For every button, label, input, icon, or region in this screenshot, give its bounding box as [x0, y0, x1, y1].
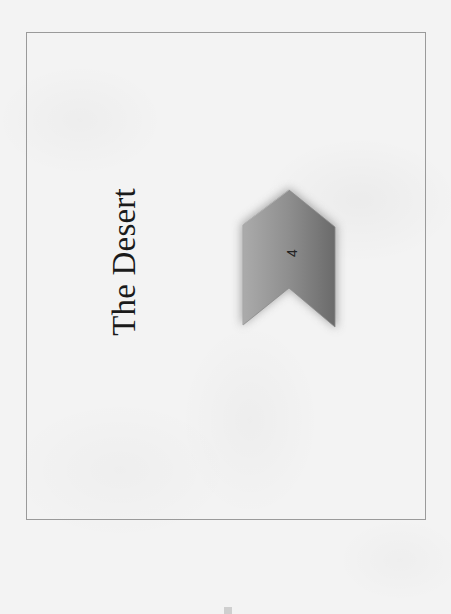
page-number-mark — [224, 607, 232, 614]
chevron-shape — [0, 0, 451, 614]
chevron-body — [243, 190, 335, 327]
chevron-number-label: 4 — [285, 249, 299, 257]
